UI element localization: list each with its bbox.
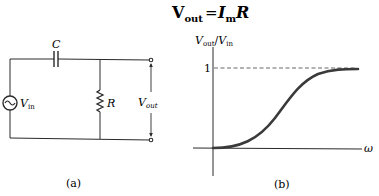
figure: Vout = ImR C R Vin Vout (a) (0, 0, 379, 196)
arrowhead-up-icon (149, 63, 153, 67)
y-axis-label: Vout/Vin (195, 34, 233, 48)
resistor-label: R (106, 97, 115, 110)
equation-lhs: Vout (171, 3, 203, 24)
equation-rhs: ImR (217, 3, 249, 24)
sine-wave-icon (5, 101, 15, 105)
terminal-bottom-icon (149, 138, 153, 142)
terminal-top-icon (149, 58, 153, 62)
source-label: Vin (20, 97, 35, 111)
capacitor-label: C (52, 38, 61, 51)
output-label: Vout (138, 96, 158, 110)
wire-top-right (58, 59, 150, 60)
resistor-icon (97, 90, 103, 112)
caption-b: (b) (274, 178, 290, 191)
arrowhead-down-icon (149, 133, 153, 137)
equation-equals: = (205, 4, 218, 22)
graph (193, 47, 362, 176)
wire-bottom (10, 138, 150, 140)
x-axis-label: ω (364, 142, 373, 155)
y-tick-1: 1 (204, 62, 211, 75)
response-curve (213, 69, 358, 148)
caption-a: (a) (66, 177, 81, 190)
equation: Vout = ImR (171, 3, 249, 24)
